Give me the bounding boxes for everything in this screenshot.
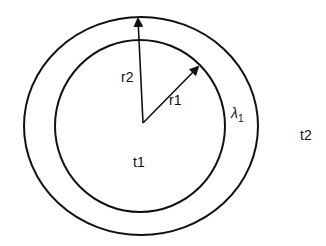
r1-label: r1 bbox=[169, 92, 182, 108]
t1-label: t1 bbox=[133, 154, 145, 170]
lambda-subscript: 1 bbox=[238, 113, 244, 124]
r2-arrow bbox=[138, 19, 143, 123]
outer-circle bbox=[24, 17, 258, 235]
concentric-circles-diagram: r2 r1 t1 t2 λ1 bbox=[0, 0, 326, 246]
r2-label: r2 bbox=[121, 69, 134, 85]
lambda-label: λ1 bbox=[230, 105, 244, 124]
lambda-symbol: λ bbox=[230, 105, 238, 121]
t2-label: t2 bbox=[300, 127, 312, 143]
